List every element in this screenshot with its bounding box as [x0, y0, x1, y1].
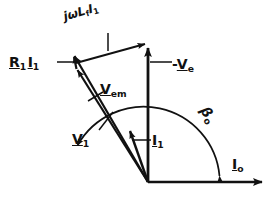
- label-vem-sym: V: [100, 81, 111, 97]
- phasor-jwlf-i1: [76, 44, 145, 63]
- label-i1: I1: [152, 133, 164, 149]
- label-v1-sym: V: [72, 131, 83, 147]
- label-r1-sym: R: [9, 54, 20, 70]
- label-vem: Vem: [100, 82, 127, 98]
- label-i1-main-sub: 1: [157, 139, 163, 150]
- label-v1: V1: [72, 132, 89, 148]
- label-io: Io: [232, 157, 244, 173]
- label-ve-sym: V: [177, 56, 188, 72]
- label-vem-sub: em: [111, 88, 127, 99]
- label-r1-i1: R1 I1: [9, 55, 39, 71]
- label-io-sub: o: [237, 163, 243, 174]
- label-r1-sub: 1: [20, 61, 26, 72]
- phasor-diagram-figure: jωLfI1 R1 I1 -Ve Vem V1 I1 βo Io: [0, 0, 276, 201]
- label-ve-sub: e: [188, 63, 194, 74]
- label-i1-sub: 1: [33, 61, 39, 72]
- label-ve: -Ve: [172, 57, 194, 73]
- label-v1-sub: 1: [83, 138, 89, 149]
